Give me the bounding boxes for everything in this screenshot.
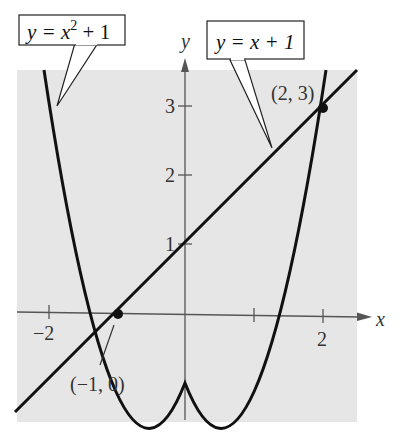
callout-parabola-main: y = x (25, 20, 71, 44)
point-label-2-3: (2, 3) (271, 82, 314, 105)
callout-parabola-sup: 2 (70, 18, 77, 33)
callout-parabola-tail: + 1 (77, 20, 110, 44)
point-2-3 (318, 103, 328, 113)
callout-line-text: y = x + 1 (214, 30, 294, 54)
y-axis-label: y (179, 30, 190, 53)
svg-text:y = x2 + 1: y = x2 + 1 (25, 18, 110, 44)
tick-label-y-2: 2 (165, 164, 175, 186)
x-axis-label: x (375, 308, 385, 330)
graph: y = x2 + 1 y = x + 1 y x −2 2 1 2 3 (−1,… (0, 0, 402, 442)
point-label-neg1-0: (−1, 0) (70, 373, 125, 396)
y-axis-arrow-icon (181, 58, 189, 72)
tick-label-y-1: 1 (165, 233, 175, 255)
tick-label-x-neg2: −2 (33, 322, 54, 344)
tick-label-y-3: 3 (165, 95, 175, 117)
tick-label-x-2: 2 (317, 328, 327, 350)
x-axis-arrow-icon (357, 313, 372, 322)
point-neg1-0 (113, 309, 123, 319)
